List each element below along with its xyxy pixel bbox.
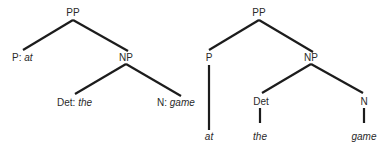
node-np: NP — [304, 52, 318, 63]
node-pp: PP — [66, 7, 80, 18]
word-game: game — [351, 131, 376, 142]
node-det: Det — [253, 96, 269, 107]
node-n: N — [360, 96, 367, 107]
edge-pp-np — [259, 20, 313, 52]
edge-np-det — [75, 64, 126, 94]
node-det: Det: the — [57, 97, 92, 108]
left-tree: PP P: at NP Det: the N: game — [12, 7, 195, 108]
node-p: P — [206, 52, 213, 63]
edge-np-n — [126, 64, 181, 96]
edge-np-det — [262, 64, 311, 93]
edge-pp-p — [209, 20, 259, 50]
node-pp: PP — [252, 7, 266, 18]
right-tree: PP P NP Det N at the game — [205, 7, 377, 142]
edge-np-n — [311, 64, 363, 93]
node-np: NP — [119, 52, 133, 63]
node-n: N: game — [157, 97, 195, 108]
word-at: at — [205, 131, 215, 142]
node-p: P: at — [12, 52, 34, 63]
parse-trees-diagram: PP P: at NP Det: the N: game PP P NP Det… — [0, 0, 388, 149]
edge-pp-np — [73, 20, 128, 51]
word-the: the — [253, 131, 267, 142]
edge-pp-p — [23, 20, 73, 50]
